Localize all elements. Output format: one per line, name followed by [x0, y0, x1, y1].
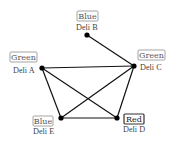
node-name-deli-a: Deli A	[13, 66, 35, 75]
edge-c-d	[117, 66, 134, 118]
node-deli-e	[58, 115, 63, 120]
deli-graph: GreenDeli ABlueDeli BGreenDeli CRedDeli …	[0, 0, 175, 143]
labels: GreenDeli ABlueDeli BGreenDeli CRedDeli …	[10, 11, 165, 136]
edge-c-e	[61, 66, 134, 118]
node-name-deli-b: Deli B	[76, 23, 98, 32]
edges	[42, 35, 134, 118]
node-deli-c	[131, 63, 136, 68]
node-name-deli-d: Deli D	[123, 125, 145, 134]
node-name-deli-e: Deli E	[33, 127, 54, 136]
color-label-deli-e: Blue	[34, 117, 53, 126]
edge-b-c	[87, 35, 134, 66]
color-label-deli-d: Red	[126, 115, 142, 124]
node-deli-a	[39, 65, 44, 70]
edge-a-e	[42, 68, 61, 118]
edge-a-d	[42, 68, 117, 118]
edge-a-c	[42, 66, 134, 68]
node-deli-b	[84, 32, 89, 37]
node-name-deli-c: Deli C	[140, 63, 162, 72]
color-label-deli-b: Blue	[78, 12, 97, 21]
color-label-deli-c: Green	[139, 51, 164, 60]
color-label-deli-a: Green	[11, 53, 36, 62]
node-deli-d	[114, 115, 119, 120]
